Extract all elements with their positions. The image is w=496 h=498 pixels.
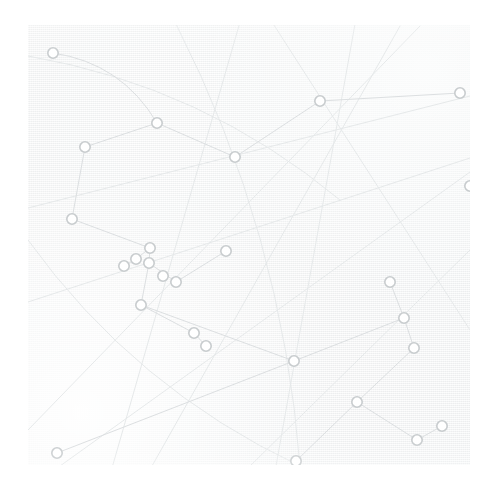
graph-node: [80, 142, 90, 152]
graph-node: [136, 300, 146, 310]
graph-edge: [294, 318, 404, 361]
graph-node: [189, 328, 199, 338]
background-line: [112, 22, 240, 468]
graph-node: [145, 243, 155, 253]
graph-edge: [72, 147, 85, 219]
graph-node: [465, 181, 475, 191]
graph-edge: [176, 251, 226, 282]
graph-edge: [141, 263, 149, 305]
graph-edge: [85, 123, 157, 147]
graph-edge: [320, 93, 460, 101]
background-line: [28, 96, 470, 208]
graph-node: [171, 277, 181, 287]
graph-node: [315, 96, 325, 106]
graph-node: [131, 254, 141, 264]
graphic-canvas: [0, 0, 496, 498]
background-line: [272, 22, 470, 330]
graph-edge: [53, 53, 157, 123]
graph-node: [52, 448, 62, 458]
graph-edge: [72, 219, 150, 248]
graph-node: [289, 356, 299, 366]
graph-node: [201, 341, 211, 351]
graph-edge: [296, 402, 357, 461]
graph-edge: [141, 305, 194, 333]
network-graph: [0, 0, 496, 498]
graph-node: [221, 246, 231, 256]
graph-node: [385, 277, 395, 287]
graph-edge: [57, 361, 294, 453]
graph-node: [409, 343, 419, 353]
graph-edge: [235, 101, 320, 157]
graph-node: [412, 435, 422, 445]
graph-edge: [357, 402, 417, 440]
graph-node: [119, 261, 129, 271]
graph-node: [48, 48, 58, 58]
graph-node: [144, 258, 154, 268]
graph-node: [399, 313, 409, 323]
graph-edge: [357, 348, 414, 402]
background-lines-layer: [28, 22, 470, 468]
background-line: [152, 26, 400, 466]
background-line: [28, 26, 420, 430]
graph-node: [230, 152, 240, 162]
graph-node: [152, 118, 162, 128]
background-line: [250, 250, 470, 466]
graph-node: [158, 271, 168, 281]
background-line: [28, 56, 340, 200]
graph-node: [67, 214, 77, 224]
background-line: [28, 158, 470, 302]
graph-node: [291, 456, 301, 466]
graph-node: [352, 397, 362, 407]
graph-node: [455, 88, 465, 98]
graph-node: [437, 421, 447, 431]
